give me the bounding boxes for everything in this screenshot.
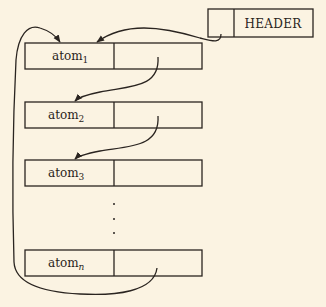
- atom-node-1: atom1: [25, 43, 202, 69]
- atom2-to-atom3-arrow: [75, 116, 158, 159]
- header-label: HEADER: [244, 17, 302, 31]
- atom-node-3: atom3: [25, 160, 202, 186]
- atom-label: atom2: [48, 108, 84, 124]
- atom-label: atom3: [48, 166, 85, 182]
- atom-node-2: atom2: [25, 102, 202, 128]
- atomn-to-atom1-arrow: [13, 27, 157, 294]
- ellipsis-dots: [113, 203, 115, 234]
- header-to-atom1-arrow: [97, 28, 221, 42]
- atom-label: atom1: [52, 49, 88, 65]
- atom-label: atomn: [48, 256, 85, 272]
- atom-node-n: atomn: [25, 250, 202, 276]
- linked-list-diagram: HEADER atom1 atom2 atom3 atomn: [0, 0, 326, 307]
- header-node: HEADER: [208, 9, 313, 37]
